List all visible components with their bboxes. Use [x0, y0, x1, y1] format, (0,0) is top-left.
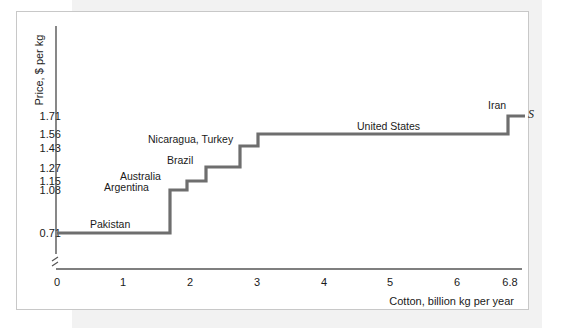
x-tick-8: 6.8 [495, 276, 525, 288]
x-tick-2: 1 [108, 276, 138, 288]
x-axis-label: Cotton, billion kg per year [389, 295, 514, 307]
annotation-iran: Iran [488, 99, 506, 111]
x-tick-1: 0 [42, 276, 72, 288]
annotation-brazil: Brazil [167, 154, 193, 166]
x-tick-5: 4 [309, 276, 339, 288]
annotation-argentina: Argentina [104, 181, 149, 193]
x-tick-6: 5 [375, 276, 405, 288]
annotation-nicaragua-turkey: Nicaragua, Turkey [148, 133, 233, 145]
x-tick-7: 6 [442, 276, 472, 288]
x-tick-3: 2 [175, 276, 205, 288]
annotation-australia: Australia [120, 170, 161, 182]
supply-curve-plot [17, 12, 530, 311]
supply-curve-s-label: S [528, 107, 534, 122]
axis-break-icon [52, 257, 58, 266]
x-tick-4: 3 [242, 276, 272, 288]
annotation-united-states: United States [357, 120, 420, 132]
figure-container: 1.71 1.56 1.43 1.27 1.15 1.08 0.71 Price… [16, 11, 529, 310]
annotation-pakistan: Pakistan [90, 218, 130, 230]
